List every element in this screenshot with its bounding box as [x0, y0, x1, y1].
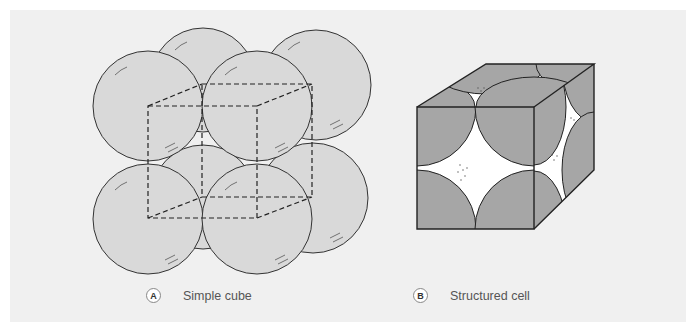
badge-a: A [146, 288, 161, 303]
structured-cell-diagram [0, 0, 696, 331]
caption-a: A Simple cube [146, 288, 252, 303]
caption-b: B Structured cell [413, 288, 530, 303]
caption-a-label: Simple cube [183, 289, 252, 303]
badge-b: B [413, 288, 428, 303]
caption-b-label: Structured cell [450, 289, 530, 303]
